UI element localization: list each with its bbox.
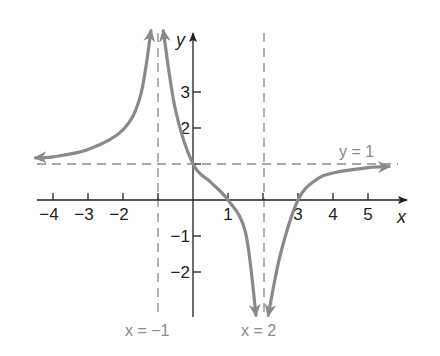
- function-curves: [36, 31, 390, 315]
- x-tick-label: −4: [39, 205, 58, 224]
- rational-function-graph: −4−3−21345 32−1−2 x y y = 1 x = −1 x = 2: [0, 0, 440, 356]
- asymptotes: [37, 33, 398, 318]
- horizontal-asymptote-label: y = 1: [339, 143, 374, 160]
- x-tick-label: −3: [74, 205, 93, 224]
- x-ticks: −4−3−21345: [39, 193, 372, 224]
- y-tick-label: 3: [181, 83, 190, 102]
- x-axis-label: x: [396, 207, 407, 227]
- x-tick-label: 5: [363, 205, 372, 224]
- y-tick-label: −2: [171, 263, 190, 282]
- vertical-asymptote-label-neg1: x = −1: [125, 322, 170, 339]
- x-tick-label: 1: [223, 205, 232, 224]
- curve-branch-right: [268, 167, 389, 316]
- y-axis-label: y: [174, 30, 186, 50]
- y-tick-label: −1: [171, 227, 190, 246]
- x-tick-label: 4: [328, 205, 337, 224]
- x-tick-label: −2: [109, 205, 128, 224]
- curve-branch-left: [36, 31, 152, 158]
- axes: −4−3−21345 32−1−2 x y: [37, 30, 407, 317]
- vertical-asymptote-label-2: x = 2: [241, 322, 276, 339]
